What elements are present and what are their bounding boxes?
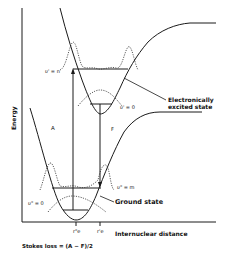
stokes-loss-label: Stokes loss = (A − F)/2: [22, 243, 93, 249]
fluorescence-arrowhead-icon: [98, 182, 102, 188]
ground-v-0-label: υ" = 0: [28, 200, 44, 206]
fluorescence-label: F: [111, 126, 114, 132]
potential-energy-diagram: Energy υ' = n υ' = 0 υ" = m υ" = 0 Elect…: [0, 0, 226, 261]
excited-v-n-label: υ' = n: [45, 68, 60, 74]
excited-v-0-label: υ' = 0: [120, 104, 135, 110]
ground-v-m-label: υ" = m: [117, 184, 135, 190]
ground-state-label: Ground state: [115, 198, 164, 206]
excited-state-leader: [124, 78, 166, 100]
r-e-ground-label: r"e: [73, 228, 80, 234]
r-e-excited-label: r'e: [97, 228, 104, 234]
y-axis-label: Energy: [10, 106, 18, 130]
absorption-label: A: [51, 125, 55, 131]
excited-state-label-line2: excited state: [168, 103, 212, 110]
x-axis-label: Internuclear distance: [115, 230, 187, 237]
excited-wavefunction-n: [60, 42, 138, 70]
ground-state-leader: [100, 196, 114, 202]
ground-wavefunction-m: [40, 163, 114, 190]
